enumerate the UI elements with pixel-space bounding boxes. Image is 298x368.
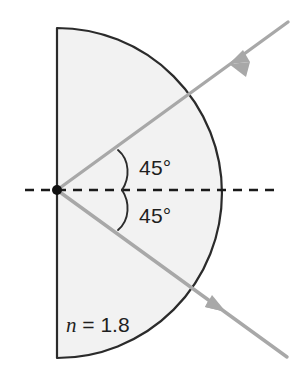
incident-ray-arrow-tail-icon bbox=[229, 62, 250, 77]
refractive-index-value: 1.8 bbox=[100, 313, 129, 336]
diagram-canvas: 45° 45° n = 1.8 bbox=[0, 0, 298, 368]
incidence-point-dot bbox=[52, 185, 62, 195]
refraction-diagram: 45° 45° n = 1.8 bbox=[0, 0, 298, 368]
angle-of-incidence-label: 45° bbox=[139, 156, 171, 179]
glass-semicircle bbox=[57, 28, 222, 358]
refractive-index-equals: = bbox=[77, 313, 101, 336]
angle-of-refraction-label: 45° bbox=[139, 204, 171, 227]
refractive-index-label: n = 1.8 bbox=[66, 313, 130, 337]
refractive-index-symbol: n bbox=[66, 313, 77, 337]
